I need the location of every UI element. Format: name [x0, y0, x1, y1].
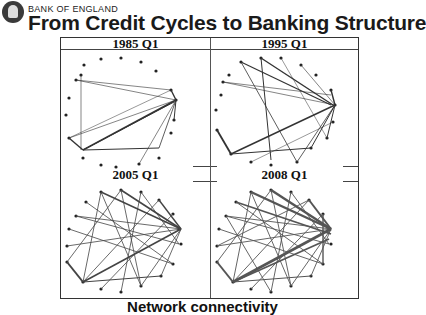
divider-tick — [343, 181, 358, 182]
divider-tick — [193, 181, 210, 182]
network-grid-frame: 1985 Q1 1995 Q1 2005 Q1 2008 Q1 — [60, 37, 359, 299]
divider-tick — [211, 181, 217, 182]
network-graph-1995 — [211, 50, 358, 170]
caption: Network connectivity — [0, 298, 405, 315]
slide-title: From Credit Cycles to Banking Structure — [28, 11, 426, 35]
network-graph-1985 — [61, 50, 210, 170]
network-graph-2005 — [61, 184, 210, 299]
network-graph-2008 — [211, 184, 358, 299]
bank-of-england-logo — [2, 1, 24, 23]
